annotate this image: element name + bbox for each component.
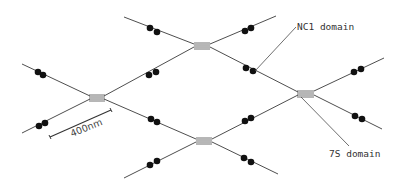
7s-domain-label: 7S domain — [329, 148, 380, 159]
7s-label-group: 7S domain — [301, 97, 380, 159]
7s-leader-line — [301, 97, 349, 146]
dot-pair-top-to-right — [243, 65, 257, 75]
junction-bottom — [196, 138, 212, 144]
dot-pair-left-lower — [36, 120, 49, 130]
dot-pair-top-upper-right — [242, 25, 255, 35]
dot-pair-left-to-top — [146, 69, 160, 79]
dot-pair-bottom-to-right — [242, 115, 255, 125]
scale-bar: 400nm — [49, 108, 112, 139]
strand-bottom-to-right — [212, 95, 298, 139]
dot-pair-bottom-lower-right — [241, 155, 255, 166]
junction-right — [297, 91, 314, 97]
strand-right-upper — [314, 58, 384, 91]
junction-left — [89, 95, 105, 101]
nc1-label-group: NC1 domain — [255, 21, 354, 71]
nc1-leader-line — [255, 27, 296, 71]
nc1-dots — [35, 25, 366, 169]
strand-left-to-top — [104, 47, 194, 96]
dot-pair-left-upper — [35, 69, 47, 79]
collagen-network-diagram: NC1 domain 7S domain 400nm — [0, 0, 402, 186]
strand-left-upper — [22, 64, 90, 96]
strand-right-lower — [314, 95, 382, 129]
dot-pair-top-upper-left — [147, 25, 161, 36]
scale-bar-label: 400nm — [69, 116, 104, 139]
nc1-domain-label: NC1 domain — [297, 21, 354, 32]
junction-top — [194, 43, 210, 49]
junctions — [89, 43, 314, 144]
